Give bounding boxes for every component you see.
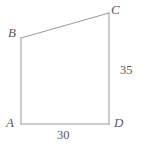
vertex-label-b: B: [8, 26, 16, 39]
side-length-label-ad: 30: [57, 129, 70, 142]
vertex-label-a: A: [6, 116, 14, 129]
vertex-label-c: C: [111, 3, 120, 16]
geometry-figure: B C A D 35 30: [0, 0, 144, 147]
side-length-label-cd: 35: [120, 64, 133, 77]
vertex-label-d: D: [114, 116, 123, 129]
edge-bc: [21, 13, 109, 38]
